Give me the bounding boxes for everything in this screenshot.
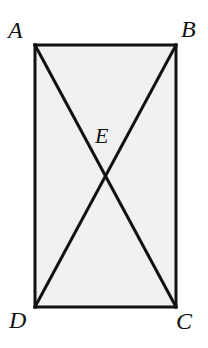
vertex-label-d: D xyxy=(9,308,26,332)
vertex-label-c: C xyxy=(176,309,192,333)
vertex-label-b: B xyxy=(181,17,196,41)
geometry-figure: A B C D E xyxy=(0,0,208,348)
vertex-label-a: A xyxy=(8,18,23,42)
vertex-label-e: E xyxy=(95,125,108,147)
figure-canvas xyxy=(0,0,208,348)
